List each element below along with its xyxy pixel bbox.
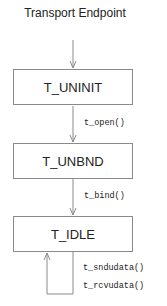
transition-label-rcvudata: t_rcvudata() [83,281,144,291]
transition-label-open: t_open() [84,118,125,128]
state-t-uninit: T_UNINIT [13,69,133,105]
self-loop-arrow [47,252,73,294]
transition-label-sndudata: t_sndudata() [83,263,144,273]
state-t-idle: T_IDLE [13,216,133,252]
transition-label-bind: t_bind() [84,191,125,201]
state-t-unbnd: T_UNBND [13,143,133,179]
